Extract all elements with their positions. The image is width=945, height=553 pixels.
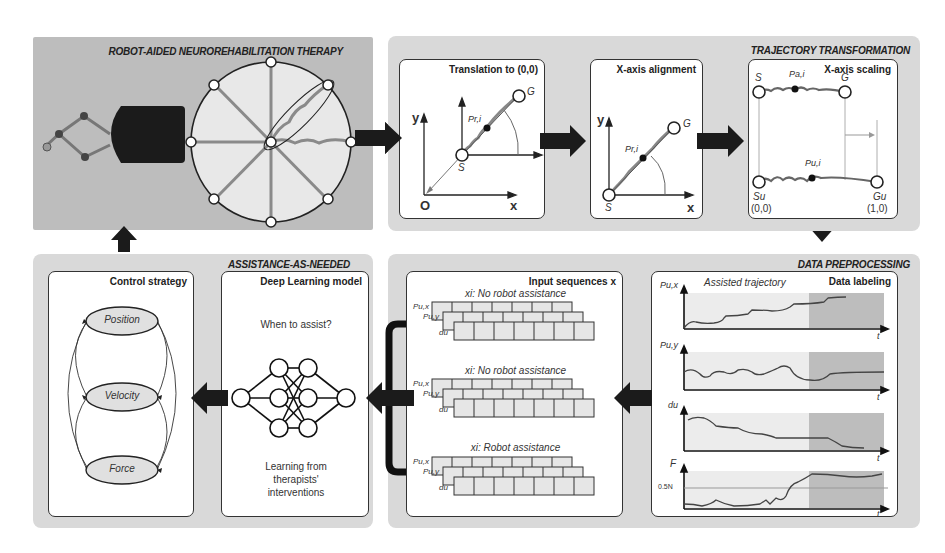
plot-ylabel-pux: Pu,x (660, 280, 678, 290)
seq-1-row-du: du (439, 328, 448, 337)
seq-3-row-pux: Pu,x (413, 457, 429, 466)
input-sequences-grid (407, 272, 624, 518)
seq-2-row-du: du (439, 405, 448, 414)
sequence-group-1-label: xi: No robot assistance (407, 288, 624, 299)
input-sequences-card: Input sequences x xi: No robot assistanc… (406, 271, 623, 517)
plot-xlabel-t-3: t (877, 453, 880, 463)
seq-1-row-puy: Pu,y (423, 312, 439, 321)
plot-xlabel-t-4: t (877, 509, 880, 519)
plot-xlabel-t-2: t (877, 392, 880, 402)
plot-xlabel-t-1: t (877, 331, 880, 341)
seq-3-row-puy: Pu,y (423, 467, 439, 476)
sequence-group-3-label: xi: Robot assistance (407, 442, 624, 453)
labeling-plots (652, 272, 899, 518)
seq-3-row-du: du (439, 483, 448, 492)
plot-ylabel-puy: Pu,y (660, 340, 678, 350)
seq-1-row-pux: Pu,x (413, 302, 429, 311)
seq-2-row-pux: Pu,x (413, 379, 429, 388)
sequence-group-2-label: xi: No robot assistance (407, 365, 624, 376)
plot-ylabel-du: du (668, 400, 678, 410)
force-threshold-label: 0.5N (658, 483, 673, 490)
seq-2-row-puy: Pu,y (423, 389, 439, 398)
data-labeling-card: Data labeling Assisted trajectory (651, 271, 898, 517)
plot-ylabel-force: F (670, 458, 676, 469)
